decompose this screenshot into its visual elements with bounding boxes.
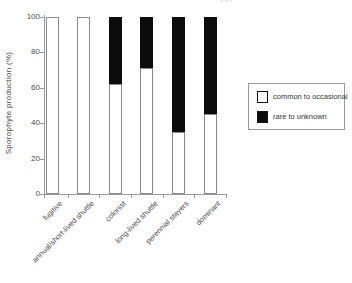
- legend: common to occasionalrare to unknown: [248, 83, 345, 130]
- x-axis-tick: [44, 194, 45, 198]
- x-axis-line: [44, 194, 226, 195]
- cropped-top-text: vvv: [220, 0, 234, 4]
- bar-segment-common-to-occasional: [46, 17, 59, 194]
- y-axis-tick-label: 100: [22, 12, 40, 22]
- y-axis-tick-label: 20: [22, 154, 40, 164]
- bar-segment-common-to-occasional: [77, 17, 90, 194]
- y-axis-tick: [40, 123, 44, 124]
- y-axis-tick-label: 40: [22, 118, 40, 128]
- y-axis-title: Sporophyte production (%): [4, 23, 14, 183]
- bar-segment-common-to-occasional: [140, 68, 153, 194]
- x-axis-category-label: colonist: [103, 199, 127, 223]
- legend-items: common to occasionalrare to unknown: [257, 91, 344, 123]
- legend-item: rare to unknown: [257, 111, 344, 123]
- x-axis-tick: [68, 194, 69, 198]
- legend-swatch: [257, 91, 268, 103]
- y-axis-tick-label: 80: [22, 47, 40, 57]
- legend-item: common to occasional: [257, 91, 344, 103]
- x-axis-tick: [131, 194, 132, 198]
- x-axis-tick: [163, 194, 164, 198]
- legend-label: common to occasional: [273, 92, 348, 101]
- bar-segment-common-to-occasional: [172, 132, 185, 194]
- bar-segment-common-to-occasional: [109, 84, 122, 194]
- y-axis-tick: [40, 52, 44, 53]
- bar-segment-rare-to-unknown: [140, 17, 153, 68]
- legend-swatch: [257, 111, 268, 123]
- x-axis-tick: [226, 194, 227, 198]
- bar-segment-rare-to-unknown: [109, 17, 122, 84]
- legend-label: rare to unknown: [273, 112, 327, 121]
- x-axis-category-label: dominant: [194, 199, 222, 227]
- x-axis-tick: [99, 194, 100, 198]
- y-axis-tick: [40, 88, 44, 89]
- x-axis-category-label: fugitive: [41, 199, 64, 222]
- x-axis-tick: [194, 194, 195, 198]
- bar-segment-rare-to-unknown: [204, 17, 217, 114]
- stacked-bar-chart: vvv Sporophyte production (%) 0204060801…: [0, 0, 352, 283]
- bar-segment-common-to-occasional: [204, 114, 217, 194]
- bar-segment-rare-to-unknown: [172, 17, 185, 132]
- y-axis-tick: [40, 159, 44, 160]
- y-axis-tick-label: 0: [22, 189, 40, 199]
- x-axis-category-label: annual/short-lived shuttle: [31, 199, 96, 264]
- y-axis-tick: [40, 17, 44, 18]
- y-axis-tick-label: 60: [22, 83, 40, 93]
